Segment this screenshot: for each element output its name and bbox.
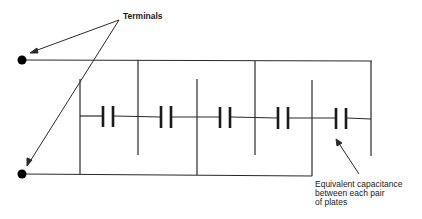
label-line: of plates [315,198,422,207]
arrowhead-icon [27,158,32,166]
terminals-label: Terminals [123,12,163,21]
terminal-top-dot [18,56,27,65]
terminal-bottom-dot [18,170,27,179]
top-bus-wire [22,60,372,61]
terminal-arrow-bottom [29,20,119,163]
bottom-bus-wire [22,174,312,176]
capacitor-symbol-4 [278,107,288,129]
capacitor-symbol-5 [336,108,346,129]
arrowhead-icon [30,48,38,53]
arrowhead-icon [336,139,342,146]
capacitor-symbol-2 [161,106,171,128]
capacitor-symbol-3 [220,107,230,128]
terminal-arrow-top [32,20,119,52]
capacitance-arrow [338,142,359,174]
equivalent-capacitance-label: Equivalent capacitance between each pair… [315,180,422,207]
capacitor-symbol-1 [103,106,113,127]
